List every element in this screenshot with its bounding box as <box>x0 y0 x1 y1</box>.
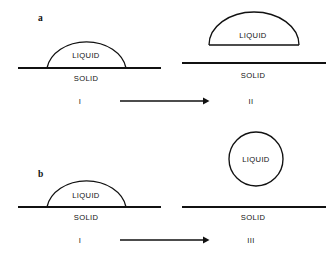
panel-b-state-i: LIQUID SOLID I <box>18 181 161 245</box>
liquid-label: LIQUID <box>239 31 267 40</box>
wetting-transition-figure: a LIQUID SOLID I LIQUID SOLID <box>0 0 332 257</box>
liquid-label: LIQUID <box>72 191 100 200</box>
panel-b-transition-arrow <box>120 237 210 244</box>
diagram-canvas: a LIQUID SOLID I LIQUID SOLID <box>0 0 332 257</box>
panel-b-letter: b <box>38 169 43 179</box>
panel-a-transition-arrow <box>120 98 210 105</box>
solid-label: SOLID <box>241 213 266 222</box>
solid-label: SOLID <box>74 74 99 83</box>
liquid-label: LIQUID <box>72 51 100 60</box>
state-numeral-i: I <box>79 236 82 245</box>
panel-a-state-ii: LIQUID SOLID II <box>182 12 326 106</box>
liquid-dome-outline <box>209 12 299 45</box>
arrow-head-icon <box>203 237 210 244</box>
state-numeral-iii: III <box>247 236 255 245</box>
panel-b: b LIQUID SOLID I LIQUID SOLID III <box>18 132 326 245</box>
solid-label: SOLID <box>74 213 99 222</box>
liquid-label: LIQUID <box>242 155 270 164</box>
panel-a: a LIQUID SOLID I LIQUID SOLID <box>18 12 326 106</box>
solid-label: SOLID <box>241 71 266 80</box>
state-numeral-i: I <box>79 97 82 106</box>
panel-a-letter: a <box>38 13 43 23</box>
panel-b-state-iii: LIQUID SOLID III <box>182 132 326 245</box>
arrow-head-icon <box>203 98 210 105</box>
panel-a-state-i: LIQUID SOLID I <box>18 42 161 106</box>
state-numeral-ii: II <box>248 97 253 106</box>
